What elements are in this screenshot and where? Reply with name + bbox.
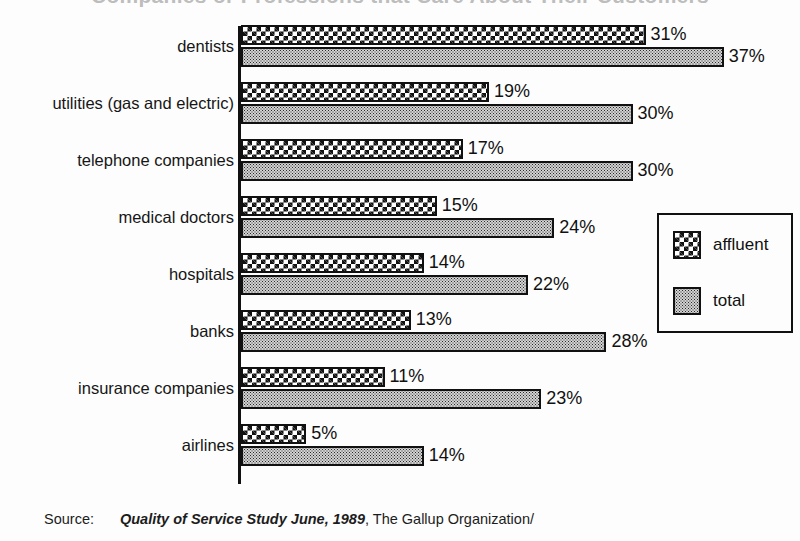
- legend-label-affluent: affluent: [713, 235, 768, 255]
- bar-value-label: 5%: [311, 423, 337, 444]
- bar-total: [241, 389, 541, 409]
- bar-total: [241, 446, 424, 466]
- bar-group: airlines5%14%: [0, 423, 800, 480]
- legend-label-total: total: [713, 291, 745, 311]
- source-rest: , The Gallup Organization/: [365, 511, 534, 527]
- bar-value-label: 37%: [729, 46, 765, 67]
- legend-swatch-total-icon: [673, 287, 701, 315]
- bar-value-label: 30%: [638, 160, 674, 181]
- bar-affluent: [241, 310, 411, 330]
- category-label: telephone companies: [0, 151, 234, 170]
- source-note: Source:Quality of Service Study June, 19…: [44, 511, 534, 527]
- bar-value-label: 31%: [651, 24, 687, 45]
- legend-box: affluent total: [657, 213, 793, 333]
- bar-affluent: [241, 25, 646, 45]
- bar-value-label: 17%: [468, 138, 504, 159]
- category-label: banks: [0, 322, 234, 341]
- bar-total: [241, 275, 528, 295]
- source-label: Source:: [44, 511, 94, 527]
- bar-total: [241, 332, 606, 352]
- bar-value-label: 23%: [546, 388, 582, 409]
- bar-affluent: [241, 196, 437, 216]
- bar-total: [241, 161, 633, 181]
- bar-affluent: [241, 82, 489, 102]
- bar-group: dentists31%37%: [0, 24, 800, 81]
- bar-value-label: 19%: [494, 81, 530, 102]
- bar-value-label: 22%: [533, 274, 569, 295]
- chart-page: Companies or Professions that Care About…: [0, 0, 800, 541]
- bar-value-label: 15%: [442, 195, 478, 216]
- bar-value-label: 14%: [429, 252, 465, 273]
- category-label: medical doctors: [0, 208, 234, 227]
- bar-group: insurance companies11%23%: [0, 366, 800, 423]
- bar-affluent: [241, 253, 424, 273]
- bar-value-label: 28%: [611, 331, 647, 352]
- category-label: hospitals: [0, 265, 234, 284]
- bar-total: [241, 104, 633, 124]
- bar-value-label: 14%: [429, 445, 465, 466]
- category-label: insurance companies: [0, 379, 234, 398]
- chart-title: Companies or Professions that Care About…: [0, 0, 800, 8]
- bar-total: [241, 47, 724, 67]
- source-publication: Quality of Service Study June, 1989: [120, 511, 365, 527]
- category-label: airlines: [0, 436, 234, 455]
- bar-group: utilities (gas and electric)19%30%: [0, 81, 800, 138]
- bar-affluent: [241, 367, 385, 387]
- bar-total: [241, 218, 554, 238]
- bar-affluent: [241, 424, 306, 444]
- category-label: utilities (gas and electric): [0, 94, 234, 113]
- bar-value-label: 24%: [559, 217, 595, 238]
- category-label: dentists: [0, 37, 234, 56]
- bar-value-label: 11%: [390, 366, 425, 387]
- bar-affluent: [241, 139, 463, 159]
- bar-group: telephone companies17%30%: [0, 138, 800, 195]
- bar-value-label: 13%: [416, 309, 452, 330]
- bar-value-label: 30%: [638, 103, 674, 124]
- legend-swatch-affluent-icon: [673, 231, 701, 259]
